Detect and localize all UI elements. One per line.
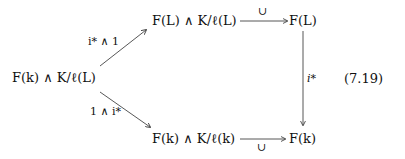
label-top-horizontal: ∪	[258, 5, 267, 18]
node-top-right: F(L)	[289, 13, 317, 28]
node-left: F(k) ∧ K/ℓ(L)	[12, 70, 96, 86]
node-bottom-right: F(k)	[289, 131, 316, 146]
label-right-vertical: i*	[307, 72, 316, 85]
label-bottom-horizontal: ∪	[257, 141, 266, 154]
node-bottom-middle: F(k) ∧ K/ℓ(k)	[152, 131, 235, 147]
label-left-to-bottom: 1 ∧ i*	[90, 105, 121, 118]
node-top-middle: F(L) ∧ K/ℓ(L)	[152, 13, 237, 29]
equation-number: (7.19)	[344, 71, 383, 86]
label-left-to-top: i* ∧ 1	[88, 35, 119, 48]
